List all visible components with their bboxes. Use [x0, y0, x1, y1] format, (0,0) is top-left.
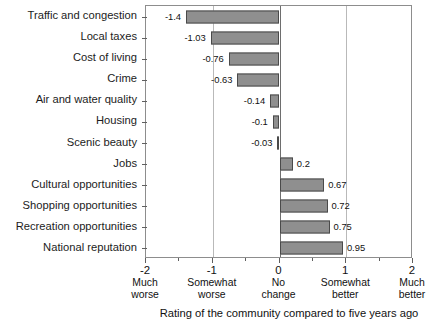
x-axis-tick-value: 0: [261, 264, 295, 277]
bar-value-label: -0.03: [251, 138, 272, 148]
x-axis-tick-label-group: 0Nochange: [261, 264, 295, 300]
x-axis-tick-label-group: 1Somewhatbetter: [321, 264, 370, 300]
bar: [280, 200, 328, 213]
category-label: Cost of living: [73, 47, 137, 68]
x-axis-tick-descriptor: better: [399, 289, 426, 301]
x-axis-major-tick: [412, 258, 413, 263]
x-axis-tick-descriptor: change: [261, 289, 295, 301]
x-axis-tick-descriptor: Somewhat: [187, 277, 236, 289]
bar-row: 0.72: [146, 196, 411, 217]
bar-value-label: -0.63: [211, 75, 232, 85]
x-axis-tick-value: 2: [399, 264, 426, 277]
category-label: Air and water quality: [36, 89, 137, 110]
x-axis-tick-descriptor: No: [261, 277, 295, 289]
bar-row: 0.67: [146, 175, 411, 196]
bar: [277, 137, 279, 150]
plot-area: -1.4-1.03-0.76-0.63-0.14-0.1-0.030.20.67…: [145, 5, 412, 258]
bar: [280, 179, 325, 192]
category-label: National reputation: [43, 237, 137, 258]
x-axis-major-tick: [279, 258, 280, 263]
bar: [229, 52, 280, 65]
x-axis-tick-value: 1: [321, 264, 370, 277]
x-axis-major-tick: [345, 258, 346, 263]
bar-value-label: -0.76: [202, 54, 223, 64]
bar-value-label: -1.4: [165, 12, 181, 22]
category-label: Traffic and congestion: [28, 5, 137, 26]
bar: [280, 242, 343, 255]
x-axis-major-tick: [145, 258, 146, 263]
category-axis-labels: Traffic and congestionLocal taxesCost of…: [0, 5, 141, 258]
category-label: Crime: [107, 68, 137, 89]
bar-value-label: -1.03: [184, 33, 205, 43]
category-label: Housing: [96, 110, 137, 131]
bar: [186, 10, 279, 23]
category-label: Local taxes: [80, 26, 137, 47]
bar-value-label: 0.75: [334, 222, 352, 232]
x-axis-minor-tick: [178, 258, 179, 261]
bar-row: -0.03: [146, 133, 411, 154]
bar-row: 0.2: [146, 154, 411, 175]
bar: [280, 158, 293, 171]
x-axis-tick-descriptor: Much: [399, 277, 426, 289]
bar-row: -1.4: [146, 6, 411, 27]
x-axis-tick-value: -1: [187, 264, 236, 277]
x-axis-tick-descriptor: worse: [187, 289, 236, 301]
bar-value-label: -0.1: [252, 117, 268, 127]
bar-row: -0.76: [146, 48, 411, 69]
bar-row: -1.03: [146, 27, 411, 48]
category-label: Jobs: [113, 153, 137, 174]
category-label: Scenic beauty: [67, 132, 137, 153]
bar-value-label: 0.67: [328, 180, 346, 190]
x-axis-tick-labels: -2Muchworse-1Somewhatworse0Nochange1Some…: [0, 264, 433, 304]
bar-row: -0.63: [146, 69, 411, 90]
x-axis-title: Rating of the community compared to five…: [145, 306, 433, 320]
bar: [280, 221, 330, 234]
bar-row: -0.14: [146, 90, 411, 111]
bar: [273, 115, 280, 128]
bar: [237, 73, 279, 86]
horizontal-bar-chart: Traffic and congestionLocal taxesCost of…: [0, 0, 433, 322]
bar-value-label: 0.95: [347, 243, 365, 253]
bar-row: 0.75: [146, 217, 411, 238]
category-label: Recreation opportunities: [16, 216, 137, 237]
bar-value-label: 0.2: [297, 159, 310, 169]
x-axis-tick-label-group: 2Muchbetter: [399, 264, 426, 300]
x-axis-major-tick: [212, 258, 213, 263]
bar-row: 0.95: [146, 238, 411, 259]
x-axis-tick-descriptor: Much: [131, 277, 159, 289]
x-axis-tick-label-group: -1Somewhatworse: [187, 264, 236, 300]
x-axis-tick-value: -2: [131, 264, 159, 277]
bar-value-label: 0.72: [332, 201, 350, 211]
category-label: Cultural opportunities: [31, 174, 137, 195]
x-axis-tick-descriptor: Somewhat: [321, 277, 370, 289]
x-axis-minor-tick: [312, 258, 313, 261]
x-axis-tick-descriptor: worse: [131, 289, 159, 301]
bar: [211, 31, 280, 44]
bar-row: -0.1: [146, 111, 411, 132]
category-label: Shopping opportunities: [23, 195, 137, 216]
bar-value-label: -0.14: [244, 96, 265, 106]
x-axis-minor-tick: [245, 258, 246, 261]
bar: [270, 94, 279, 107]
x-axis-minor-tick: [379, 258, 380, 261]
x-axis-tick-label-group: -2Muchworse: [131, 264, 159, 300]
x-axis-tick-descriptor: better: [321, 289, 370, 301]
